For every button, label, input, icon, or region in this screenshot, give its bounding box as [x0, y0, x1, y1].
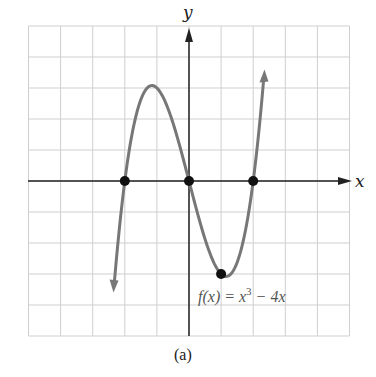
x-axis-label: x: [355, 171, 365, 191]
marked-point: [216, 269, 226, 279]
curve-arrow-up-icon: [259, 70, 268, 83]
function-label: f(x) = x3 − 4x: [198, 285, 286, 306]
caption: (a): [174, 346, 192, 364]
marked-point: [120, 176, 130, 186]
marked-point: [248, 176, 258, 186]
curve-arrow-down-icon: [110, 279, 119, 292]
marked-point: [184, 176, 194, 186]
y-axis-label: y: [182, 2, 193, 22]
chart: x y f(x) = x3 − 4x (a): [0, 0, 376, 377]
